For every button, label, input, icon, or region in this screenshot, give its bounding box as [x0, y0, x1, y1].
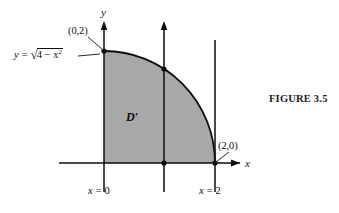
y-axis-label: y	[101, 7, 106, 18]
region-label-d-prime: D′	[126, 111, 138, 123]
figure-graphic	[0, 0, 339, 213]
vline-right-label-value: 2	[216, 185, 221, 196]
leader-line-curve-equation	[78, 54, 100, 56]
vline-right-label-equals: =	[207, 185, 213, 196]
point-label-0-2: (0,2)	[68, 26, 88, 37]
point-dot-middle-curve	[161, 66, 166, 71]
curve-equation-equals: =	[22, 49, 28, 60]
figure-caption: FIGURE 3.5	[269, 94, 328, 105]
figure-container: y x (0,2) (2,0) D′ y=√4 − x2 x=0 x=2 FIG…	[0, 0, 339, 213]
middle-vertical-line-arrowhead	[161, 21, 168, 30]
point-label-2-0: (2,0)	[218, 141, 238, 152]
point-dot-middle-axis	[161, 160, 166, 165]
curve-equation-label: y=√4 − x2	[14, 47, 63, 61]
vline-left-label-equals: =	[96, 185, 102, 196]
y-axis-arrowhead	[101, 21, 108, 30]
curve-equation-radicand: 4 − x2	[37, 48, 63, 60]
x-axis-label: x	[245, 158, 250, 169]
leader-line-point-2-0	[216, 152, 229, 162]
vline-label-x-equals-0: x=0	[88, 186, 110, 197]
curve-equation-radicand-main: 4 − x	[37, 49, 59, 60]
vline-left-label-value: 0	[105, 185, 110, 196]
vline-right-label-prefix: x	[199, 185, 204, 196]
vline-label-x-equals-2: x=2	[199, 186, 221, 197]
x-axis-arrowhead	[231, 160, 240, 167]
leader-line-point-0-2	[88, 37, 103, 50]
curve-equation-exponent: 2	[58, 48, 62, 56]
vline-left-label-prefix: x	[88, 185, 93, 196]
shaded-region-d-prime	[104, 51, 215, 163]
radical-sign-icon: √	[31, 47, 38, 62]
curve-equation-lhs: y	[14, 49, 19, 60]
